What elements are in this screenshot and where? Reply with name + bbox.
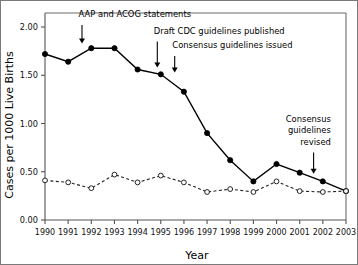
- y-tick-label: 2.00: [20, 22, 38, 32]
- data-point-marker: [66, 59, 71, 64]
- x-tick-label: 1995: [151, 228, 171, 237]
- annotation-label-draft-cdc: Draft CDC guidelines published: [154, 26, 285, 36]
- y-axis-title: Cases per 1000 Live Births: [3, 51, 16, 199]
- x-tick-label: 2002: [313, 228, 333, 237]
- x-tick-label: 1991: [58, 228, 78, 237]
- annotation-arrowhead-draft-cdc: [154, 63, 160, 68]
- data-point-marker: [228, 158, 233, 163]
- annotation-layer: AAP and ACOG statementsDraft CDC guideli…: [79, 9, 331, 173]
- data-point-marker: [181, 89, 186, 94]
- annotation-label-consensus-revised-line1: Consensus: [286, 114, 331, 124]
- data-point-marker: [158, 72, 163, 77]
- x-tick-label: 1990: [35, 228, 55, 237]
- x-tick-label: 2001: [290, 228, 310, 237]
- data-point-marker: [251, 190, 256, 195]
- x-tick-label: 1992: [81, 228, 101, 237]
- data-point-marker: [320, 190, 325, 195]
- data-point-marker: [112, 172, 117, 177]
- data-point-marker: [251, 179, 256, 184]
- annotation-label-consensus-revised-line3: revised: [300, 137, 331, 147]
- data-point-marker: [228, 187, 233, 192]
- line-chart: Cases per 1000 Live Births Year 0.000.50…: [1, 1, 357, 264]
- data-point-marker: [66, 180, 71, 185]
- x-axis-title: Year: [184, 249, 209, 262]
- data-point-marker: [42, 51, 47, 56]
- data-point-marker: [135, 67, 140, 72]
- data-point-marker: [43, 178, 48, 183]
- x-tick-label: 1996: [174, 228, 194, 237]
- x-tick-label: 1999: [243, 228, 263, 237]
- x-tick-label: 1998: [220, 228, 240, 237]
- data-point-marker: [205, 190, 210, 195]
- data-point-marker: [297, 189, 302, 194]
- annotation-arrowhead-consensus-issued: [172, 67, 178, 72]
- data-point-marker: [344, 189, 349, 194]
- annotation-label-consensus-issued: Consensus guidelines issued: [172, 40, 292, 50]
- data-point-marker: [158, 173, 163, 178]
- data-point-marker: [320, 179, 325, 184]
- annotation-arrowhead-aap-acog: [79, 38, 85, 43]
- x-tick-label: 2003: [336, 228, 356, 237]
- annotation-arrowhead-consensus-revised-line3: [311, 169, 317, 174]
- data-point-marker: [274, 161, 279, 166]
- data-point-marker: [274, 179, 279, 184]
- data-point-marker: [205, 131, 210, 136]
- x-tick-label: 1994: [127, 228, 147, 237]
- y-tick-label: 0.00: [20, 215, 38, 225]
- y-tick-label: 0.50: [20, 167, 38, 177]
- x-tick-label: 2000: [266, 228, 286, 237]
- data-point-marker: [297, 170, 302, 175]
- data-point-marker: [89, 186, 94, 191]
- y-tick-labels: 0.000.501.001.502.00: [20, 22, 45, 225]
- data-point-marker: [135, 180, 140, 185]
- x-tick-label: 1993: [104, 228, 124, 237]
- y-tick-label: 1.00: [20, 119, 38, 129]
- annotation-label-consensus-revised-line2: guidelines: [288, 125, 331, 135]
- data-point-marker: [182, 180, 187, 185]
- y-tick-label: 1.50: [20, 70, 38, 80]
- x-tick-label: 1997: [197, 228, 217, 237]
- annotation-label-aap-acog: AAP and ACOG statements: [79, 9, 191, 19]
- chart-figure: Cases per 1000 Live Births Year 0.000.50…: [0, 0, 358, 265]
- x-tick-labels: 1990199119921993199419951996199719981999…: [35, 220, 356, 237]
- data-point-marker: [89, 46, 94, 51]
- data-point-marker: [112, 46, 117, 51]
